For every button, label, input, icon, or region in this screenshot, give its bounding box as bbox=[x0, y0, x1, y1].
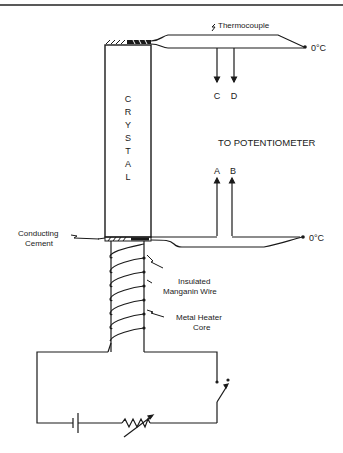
ref-label-top: 0°C bbox=[311, 43, 327, 53]
terminal-b-label: B bbox=[230, 166, 236, 176]
heater-label-line1: Metal Heater bbox=[176, 313, 222, 322]
crystal-letter: T bbox=[125, 146, 131, 156]
top-junction bbox=[106, 40, 151, 44]
conducting-cement-label-line2: Cement bbox=[25, 239, 54, 248]
manganin-coil bbox=[108, 244, 145, 352]
battery bbox=[73, 413, 78, 433]
thermocouple-label: Thermocouple bbox=[218, 21, 270, 30]
crystal-letter: C bbox=[125, 94, 132, 104]
top-reference-junction bbox=[303, 45, 307, 49]
crystal-letter: L bbox=[125, 172, 130, 182]
manganin-pointer bbox=[147, 255, 163, 268]
crystal-letter: S bbox=[125, 133, 131, 143]
manganin-label-line2: Manganin Wire bbox=[163, 287, 217, 296]
heater-label-line2: Core bbox=[193, 323, 211, 332]
heater-pointer bbox=[147, 310, 164, 317]
terminal-d-label: D bbox=[231, 91, 238, 101]
ref-label-bottom: 0°C bbox=[309, 233, 325, 243]
manganin-label-line1: Insulated bbox=[178, 277, 210, 286]
crystal-letter: Y bbox=[125, 120, 131, 130]
rheostat bbox=[122, 415, 153, 437]
potentiometer-label: TO POTENTIOMETER bbox=[218, 137, 316, 148]
crystal-letter: R bbox=[125, 107, 132, 117]
switch bbox=[216, 379, 229, 402]
top-thermocouple bbox=[151, 35, 304, 82]
crystal: C R Y S T A L bbox=[105, 45, 151, 237]
crystal-letter: A bbox=[125, 159, 131, 169]
terminal-a-label: A bbox=[214, 166, 220, 176]
cement-pointer bbox=[71, 235, 99, 239]
thermocouple-pointer bbox=[212, 24, 215, 31]
bottom-reference-junction bbox=[301, 235, 305, 239]
terminal-c-label: C bbox=[214, 91, 221, 101]
heater-circuit bbox=[37, 352, 217, 423]
conducting-cement-label-line1: Conducting bbox=[18, 229, 58, 238]
diagram-canvas: C R Y S T A L 0°C Thermocouple C D TO PO… bbox=[0, 0, 343, 453]
